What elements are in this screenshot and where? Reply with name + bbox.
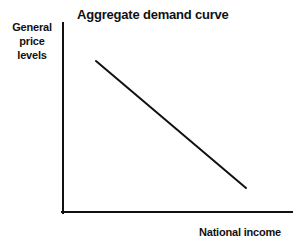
y-axis-label-line-2: price <box>4 34 60 48</box>
chart-figure: Aggregate demand curve General price lev… <box>0 0 300 245</box>
y-axis-label: General price levels <box>4 20 60 62</box>
x-axis-label: National income <box>199 225 281 239</box>
y-axis-label-line-1: General <box>4 20 60 34</box>
chart-title: Aggregate demand curve <box>77 8 229 22</box>
y-axis-label-line-3: levels <box>4 48 60 62</box>
